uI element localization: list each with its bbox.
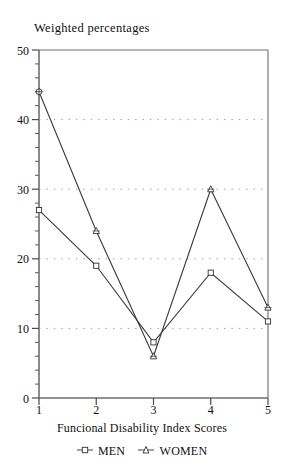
x-axis-title: Funcional Disability Index Scores [0, 421, 284, 436]
gridlines [39, 120, 268, 329]
y-tick-label-20: 20 [17, 252, 29, 266]
y-axis-tick-labels: 50 40 30 20 10 0 [17, 44, 29, 406]
chart-legend: MEN WOMEN [0, 443, 284, 459]
x-axis-tick-labels: 1 2 3 4 5 [36, 403, 271, 417]
x-tick-label-1: 1 [36, 403, 42, 417]
y-tick-label-30: 30 [17, 183, 29, 197]
legend-entry-women: WOMEN [138, 443, 207, 459]
plot-area: 50 40 30 20 10 0 1 2 3 4 5 [0, 0, 284, 475]
star-marker-icon [138, 444, 154, 459]
y-tick-label-50: 50 [17, 44, 29, 58]
x-tick-label-3: 3 [151, 403, 157, 417]
x-tick-label-5: 5 [265, 403, 271, 417]
series-markers-men [36, 207, 270, 344]
y-tick-label-10: 10 [17, 322, 29, 336]
series-line-men [39, 210, 268, 342]
x-tick-label-2: 2 [93, 403, 99, 417]
chart-figure: Weighted percentages [0, 0, 284, 475]
plot-frame [39, 50, 268, 398]
y-axis-major-ticks [32, 50, 39, 398]
series-line-women [39, 92, 268, 356]
x-tick-label-4: 4 [208, 403, 214, 417]
square-marker-icon [77, 444, 93, 459]
y-tick-label-0: 0 [23, 392, 29, 406]
legend-label-men: MEN [98, 444, 125, 459]
legend-entry-men: MEN [77, 443, 125, 459]
y-tick-label-40: 40 [17, 113, 29, 127]
series-markers-women [35, 88, 271, 359]
legend-label-women: WOMEN [160, 444, 208, 459]
